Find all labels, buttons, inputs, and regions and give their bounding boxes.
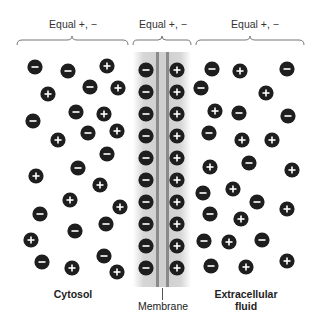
negative-ion-icon (68, 104, 84, 120)
membrane-pointer-line (162, 288, 163, 300)
positive-ion-icon (50, 132, 66, 148)
negative-ion-icon (25, 113, 41, 129)
positive-ion-icon (284, 162, 300, 178)
cytosol-brace (17, 36, 128, 45)
positive-ion-icon (238, 259, 254, 275)
negative-ion-icon (60, 63, 76, 79)
positive-ion-icon (23, 232, 39, 248)
negative-ion-icon (195, 185, 211, 201)
positive-ion-icon (110, 80, 126, 96)
negative-ion-icon (204, 61, 220, 77)
positive-ion-icon (99, 58, 115, 74)
positive-ion-icon (169, 172, 185, 188)
positive-ion-icon (169, 216, 185, 232)
negative-ion-icon (27, 59, 43, 75)
negative-ion-icon (99, 146, 115, 162)
positive-ion-icon (169, 150, 185, 166)
positive-ion-icon (225, 181, 241, 197)
negative-ion-icon (249, 194, 265, 210)
positive-ion-icon (28, 168, 44, 184)
negative-ion-icon (279, 61, 295, 77)
positive-ion-icon (258, 85, 274, 101)
positive-ion-icon (279, 201, 295, 217)
negative-ion-icon (231, 105, 247, 121)
positive-ion-icon (169, 62, 185, 78)
negative-ion-icon (70, 160, 86, 176)
positive-ion-icon (109, 264, 125, 280)
negative-ion-icon (67, 223, 83, 239)
negative-ion-icon (138, 106, 154, 122)
negative-ion-icon (138, 62, 154, 78)
negative-ion-icon (98, 216, 114, 232)
positive-ion-icon (62, 192, 78, 208)
positive-ion-icon (169, 84, 185, 100)
negative-ion-icon (196, 233, 212, 249)
negative-ion-icon (138, 84, 154, 100)
positive-ion-icon (202, 159, 218, 175)
positive-ion-icon (233, 211, 249, 227)
negative-ion-icon (82, 79, 98, 95)
positive-ion-icon (112, 199, 128, 215)
membrane-label: Membrane (135, 300, 191, 312)
negative-ion-icon (202, 206, 218, 222)
extracellular-fluid-label: Extracellular fluid (210, 288, 282, 312)
negative-ion-icon (34, 254, 50, 270)
negative-ion-icon (280, 108, 296, 124)
positive-ion-icon (169, 260, 185, 276)
positive-ion-icon (96, 106, 112, 122)
negative-ion-icon (254, 232, 270, 248)
negative-ion-icon (138, 194, 154, 210)
positive-ion-icon (64, 260, 80, 276)
positive-ion-icon (169, 238, 185, 254)
negative-ion-icon (138, 150, 154, 166)
membrane-brace (133, 36, 191, 45)
positive-ion-icon (221, 234, 237, 250)
positive-ion-icon (169, 128, 185, 144)
negative-ion-icon (138, 172, 154, 188)
negative-ion-icon (138, 128, 154, 144)
positive-ion-icon (279, 253, 295, 269)
negative-ion-icon (241, 155, 257, 171)
negative-ion-icon (32, 206, 48, 222)
negative-ion-icon (138, 216, 154, 232)
positive-ion-icon (109, 123, 125, 139)
membrane-inner-line (156, 52, 159, 287)
cytosol-label: Cytosol (48, 288, 98, 300)
positive-ion-icon (207, 103, 223, 119)
positive-ion-icon (234, 132, 250, 148)
extracellular-brace (196, 36, 304, 45)
negative-ion-icon (201, 125, 217, 141)
negative-ion-icon (80, 125, 96, 141)
region-braces (0, 0, 320, 60)
positive-ion-icon (40, 86, 56, 102)
positive-ion-icon (232, 63, 248, 79)
negative-ion-icon (193, 80, 209, 96)
positive-ion-icon (169, 106, 185, 122)
negative-ion-icon (96, 248, 112, 264)
negative-ion-icon (203, 258, 219, 274)
positive-ion-icon (92, 177, 108, 193)
negative-ion-icon (138, 260, 154, 276)
negative-ion-icon (138, 238, 154, 254)
positive-ion-icon (264, 132, 280, 148)
positive-ion-icon (169, 194, 185, 210)
